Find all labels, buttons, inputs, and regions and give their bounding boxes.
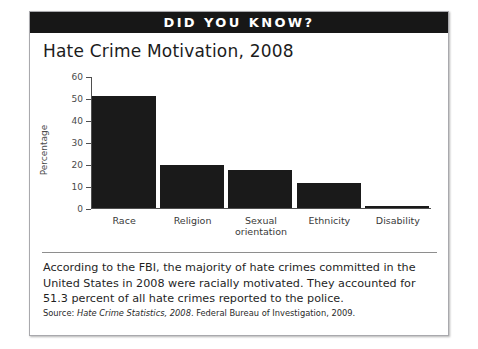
bar-slot [228, 77, 292, 208]
y-tick-mark [86, 121, 91, 122]
source-prefix: Source: [43, 308, 77, 318]
category-label-ethnicity: Ethnicity [297, 215, 361, 237]
y-tick-mark [86, 77, 91, 78]
bar-chart: Percentage 0102030405060 RaceReligionSex… [43, 69, 435, 249]
y-tick-mark [86, 143, 91, 144]
y-tick-label: 0 [77, 204, 83, 214]
bar-sexual-orientation [228, 170, 292, 208]
source-suffix: . Federal Bureau of Investigation, 2009. [191, 308, 355, 318]
source-publication-title: Hate Crime Statistics, 2008 [77, 308, 191, 318]
category-label-disability: Disability [366, 215, 430, 237]
category-label-religion: Religion [160, 215, 224, 237]
bar-slot [160, 77, 224, 208]
category-label-race: Race [92, 215, 156, 237]
category-label-sexual-orientation: Sexual orientation [229, 215, 293, 237]
bar-religion [160, 165, 224, 208]
caption-text: According to the FBI, the majority of ha… [43, 260, 433, 307]
content-divider [42, 252, 437, 253]
bar-race [92, 96, 156, 208]
y-tick-mark [86, 209, 91, 210]
bar-disability [365, 206, 429, 208]
y-tick-mark [86, 187, 91, 188]
y-tick-label: 30 [72, 138, 83, 148]
y-tick-mark [86, 99, 91, 100]
card-header-title: DID YOU KNOW? [163, 16, 314, 29]
y-tick-label: 60 [72, 72, 83, 82]
card-header-bar: DID YOU KNOW? [30, 12, 448, 33]
bar-slot [297, 77, 361, 208]
source-line: Source: Hate Crime Statistics, 2008. Fed… [43, 308, 433, 318]
chart-title: Hate Crime Motivation, 2008 [43, 41, 294, 61]
bar-series [92, 77, 429, 208]
x-axis-line [91, 208, 431, 209]
bar-slot [92, 77, 156, 208]
bar-ethnicity [297, 183, 361, 208]
y-tick-label: 50 [72, 94, 83, 104]
y-tick-label: 40 [72, 116, 83, 126]
y-axis-label: Percentage [39, 105, 49, 195]
bar-slot [365, 77, 429, 208]
did-you-know-card: DID YOU KNOW? Hate Crime Motivation, 200… [29, 11, 449, 336]
y-tick-label: 10 [72, 182, 83, 192]
plot-area: 0102030405060 [91, 77, 429, 209]
y-tick-mark [86, 165, 91, 166]
y-tick-label: 20 [72, 160, 83, 170]
x-axis-category-labels: RaceReligionSexual orientationEthnicityD… [92, 215, 430, 237]
